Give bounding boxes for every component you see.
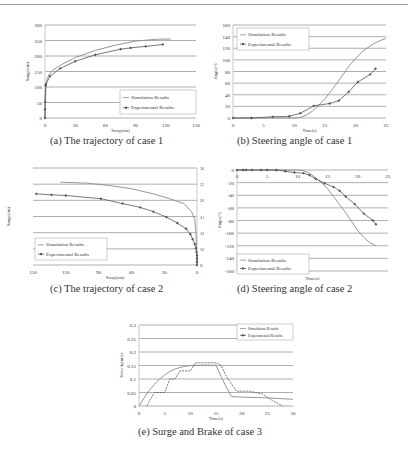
data-point-marker	[119, 48, 122, 51]
x-tick-label: 30	[73, 123, 79, 128]
data-point-marker	[260, 169, 263, 172]
data-point-marker	[35, 192, 38, 195]
x-tick-label: 25	[384, 123, 390, 128]
y-tick-label: 250	[35, 39, 43, 44]
legend-box	[237, 28, 309, 50]
y-tick-label: -100	[225, 231, 235, 236]
data-point-marker	[44, 117, 47, 120]
y-tick-label: -60	[227, 206, 234, 211]
y-tick-label: 200	[35, 54, 43, 59]
chart-surge-brake-case3: 00.050.10.150.20.250.3051015202530Time(s…	[100, 310, 320, 422]
x-tick-label: 60	[103, 123, 109, 128]
x-tick-label: 10	[292, 123, 298, 128]
data-point-marker	[251, 169, 254, 172]
y-tick-label: -80	[227, 219, 234, 224]
x-tick-label: 150	[29, 270, 37, 275]
data-point-marker	[266, 169, 269, 172]
y-tick-label: -160	[225, 269, 235, 274]
data-point-marker	[288, 115, 291, 118]
x-tick-label: 30	[162, 270, 168, 275]
x-tick-label: 150	[192, 123, 200, 128]
y-tick-label: 140	[223, 35, 231, 40]
data-point-marker	[196, 257, 199, 260]
y-tick-label: 0.2	[130, 350, 137, 355]
caption-b: (b) Steering angle of case 1	[237, 135, 352, 146]
x-tick-label: 10	[295, 174, 301, 179]
y-tick-label: 20	[225, 104, 231, 109]
x-tick-label: 60	[129, 270, 135, 275]
y-tick-label: 0.05	[127, 391, 136, 396]
y-tick-label: 100	[35, 85, 43, 90]
y-tick-label: 0.15	[127, 364, 136, 369]
y-tick-label: 0	[228, 116, 231, 121]
experimental-line	[233, 69, 376, 118]
data-point-marker	[144, 45, 147, 48]
x-tick-label: 90	[96, 270, 102, 275]
data-point-marker	[250, 117, 253, 120]
y-tick-label: 0.25	[127, 337, 136, 342]
data-point-marker	[328, 102, 331, 105]
caption-c: (c) The trajectory of case 2	[50, 283, 163, 294]
x-tick-label: 0	[44, 123, 47, 128]
data-point-marker	[196, 254, 199, 257]
data-point-marker	[302, 172, 305, 175]
legend-exp-label: Experimental Results	[131, 105, 174, 110]
data-point-marker	[152, 210, 155, 213]
y-axis-label: Angle(°)	[217, 212, 222, 228]
y-axis-label: Surge(cm)	[6, 207, 11, 226]
y-tick-label: 100	[223, 58, 231, 63]
caption-d: (d) Steering angle of case 2	[237, 283, 352, 294]
legend-sim-label: Simulation Results	[248, 32, 286, 37]
x-tick-label: 10	[188, 411, 194, 416]
y-tick-label: 0.3	[130, 323, 137, 328]
y-axis-label: Angle(°)	[213, 63, 218, 79]
y-tick-label: 60	[225, 81, 231, 86]
data-point-marker	[275, 169, 278, 172]
x-axis-label: Sway(cm)	[111, 128, 130, 133]
x-tick-label: 20	[355, 174, 361, 179]
x-tick-label: 15	[325, 174, 331, 179]
legend-box	[120, 90, 196, 114]
data-point-marker	[50, 193, 53, 196]
x-axis-label: Time(s)	[209, 416, 224, 421]
x-tick-label: 0	[236, 174, 239, 179]
x-tick-label: 90	[133, 123, 139, 128]
y-tick-label: 0.1	[130, 377, 137, 382]
x-tick-label: 25	[386, 174, 392, 179]
y-tick-label: 160	[223, 23, 231, 28]
legend-exp-marker	[242, 268, 244, 270]
data-point-marker	[196, 260, 199, 263]
data-point-marker	[245, 169, 248, 172]
chart-trajectory-case2: 0501001502002503001501209060300Sway(cm)S…	[0, 160, 204, 280]
x-tick-label: 5	[262, 123, 265, 128]
y-tick-label: 80	[225, 70, 231, 75]
x-tick-label: 20	[239, 411, 245, 416]
data-point-marker	[191, 238, 194, 241]
x-axis-label: Time(s)	[302, 128, 317, 133]
chart-steering-case2: 0-20-40-60-80-100-120-140-1600510152025T…	[204, 160, 408, 280]
legend-exp-marker	[242, 43, 244, 45]
chart-trajectory-case1: 0501001502002503000306090120150Sway(cm)S…	[0, 10, 204, 135]
y-tick-label: 0	[200, 263, 203, 268]
x-tick-label: 15	[322, 123, 328, 128]
caption-e: (e) Surge and Brake of case 3	[138, 426, 262, 437]
chart-steering-case1: 0204060801001201401600510152025Time(s)An…	[204, 10, 408, 135]
legend-exp-marker	[242, 334, 244, 336]
y-tick-label: 0	[232, 168, 235, 173]
x-tick-label: 5	[163, 411, 166, 416]
y-tick-label: -140	[225, 256, 235, 261]
y-tick-label: -120	[225, 244, 235, 249]
caption-a: (a) The trajectory of case 1	[50, 135, 163, 146]
legend-exp-marker	[40, 253, 42, 255]
y-tick-label: 300	[35, 23, 43, 28]
x-axis-label: Time(s)	[305, 276, 320, 280]
data-point-marker	[44, 108, 47, 111]
y-tick-label: 120	[223, 46, 231, 51]
x-tick-label: 0	[232, 123, 235, 128]
y-axis-label: Velocity(m/s)	[119, 353, 124, 378]
data-point-marker	[99, 197, 102, 200]
legend-sim-label: Simulation Results	[248, 326, 279, 331]
y-tick-label: 150	[35, 70, 43, 75]
legend-sim-label: Simulation Results	[131, 95, 169, 100]
x-tick-label: 0	[138, 411, 141, 416]
